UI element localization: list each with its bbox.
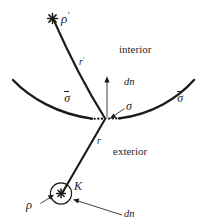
sigma-pointer-head <box>110 114 116 119</box>
normal-arrow-head <box>104 76 109 82</box>
label-K: K <box>74 180 82 192</box>
interface-curve-left <box>13 80 92 119</box>
label-r-prime-mark: ′ <box>83 55 85 63</box>
label-r-prime: r′ <box>79 56 84 68</box>
label-rho-prime-mark: ′ <box>67 10 69 20</box>
label-dn-surface: dn <box>124 77 135 88</box>
source-normal-pointer-head <box>73 199 79 204</box>
rho-pointer-head <box>48 195 55 200</box>
label-r: r <box>97 137 101 147</box>
ray-r-prime <box>54 20 105 118</box>
real-source-star-marker <box>57 189 66 198</box>
label-interior: interior <box>119 44 151 55</box>
diagram-canvas: ρ′ r′ interior dn σ σ σ r exterior K ρ d… <box>0 0 205 223</box>
label-exterior: exterior <box>113 146 147 157</box>
source-normal-pointer-shaft <box>77 201 123 216</box>
ray-r <box>63 120 105 193</box>
label-rho-prime: ρ′ <box>61 11 69 25</box>
label-sigma-bar-left: σ <box>64 91 70 104</box>
label-dn-source: dn <box>124 209 135 220</box>
image-source-star-marker <box>48 14 58 24</box>
label-sigma-element: σ <box>126 100 132 112</box>
label-sigma-bar-right: σ <box>177 91 183 104</box>
diagram-vector-layer <box>0 0 205 223</box>
label-rho: ρ <box>26 199 32 212</box>
